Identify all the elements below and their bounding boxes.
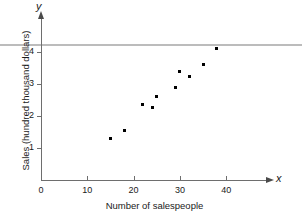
y-tick (37, 52, 42, 53)
y-axis-arrow-icon (38, 11, 44, 19)
x-axis-variable-label: x (276, 172, 282, 184)
top-horizontal-rule (0, 44, 302, 46)
data-point (155, 95, 158, 98)
data-point (215, 47, 218, 50)
x-tick-label: 30 (170, 185, 190, 195)
y-tick (37, 116, 42, 117)
x-axis-arrow-icon (266, 177, 274, 183)
y-axis-variable-label: y (36, 0, 42, 12)
data-point (151, 106, 154, 109)
x-tick-label: 10 (77, 185, 97, 195)
scatter-plot-figure: y x 1234 010203040 Number of salespeople… (0, 0, 302, 221)
data-point (174, 86, 177, 89)
data-point (109, 137, 112, 140)
data-point (178, 70, 181, 73)
y-tick (37, 84, 42, 85)
x-tick (180, 176, 181, 181)
data-point (141, 103, 144, 106)
data-point (202, 63, 205, 66)
x-tick (134, 176, 135, 181)
x-axis-line (41, 180, 268, 181)
x-axis-title: Number of salespeople (41, 200, 268, 211)
x-tick (87, 176, 88, 181)
x-tick-label: 0 (31, 185, 51, 195)
x-tick-label: 40 (216, 185, 236, 195)
y-axis-title: Sales (hundred thousand dollars) (20, 21, 31, 181)
x-tick-label: 20 (124, 185, 144, 195)
y-axis-line (41, 18, 42, 180)
data-point (188, 75, 191, 78)
data-point (123, 129, 126, 132)
x-tick (226, 176, 227, 181)
y-tick (37, 148, 42, 149)
